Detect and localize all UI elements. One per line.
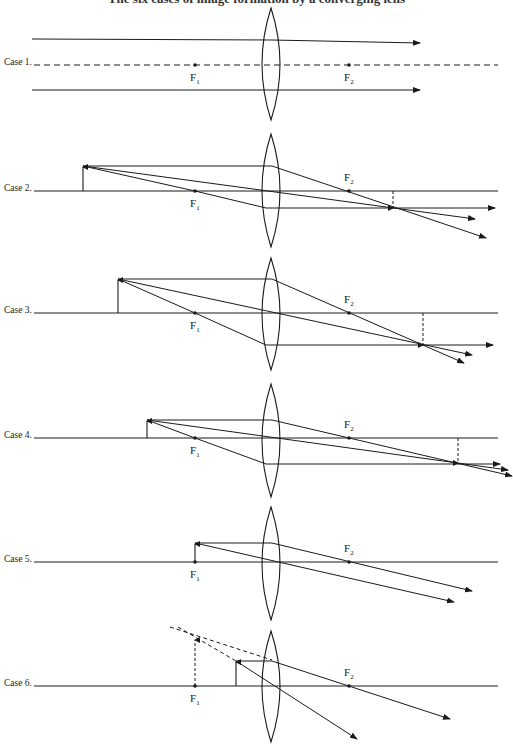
focal-subscript: 2 — [350, 178, 354, 186]
focal-label-f2: F2 — [344, 542, 354, 557]
focal-point-f2 — [347, 63, 351, 67]
converging-lens — [262, 8, 280, 120]
focal-subscript: 2 — [350, 673, 354, 681]
focal-point-f1 — [193, 311, 197, 315]
focal-subscript: 1 — [196, 204, 200, 212]
case-label: Case 3. — [4, 305, 32, 315]
case-label: Case 2. — [4, 183, 32, 193]
focal-label-f1: F1 — [190, 319, 200, 334]
light-ray — [147, 420, 508, 470]
light-ray — [147, 420, 512, 476]
focal-point-f2 — [347, 560, 351, 564]
virtual-ray-extension — [170, 627, 272, 660]
focal-subscript: 2 — [350, 425, 354, 433]
focal-point-f1 — [193, 560, 197, 564]
light-ray — [236, 661, 450, 719]
light-ray — [83, 166, 486, 238]
case-5-group — [34, 507, 498, 620]
light-ray — [83, 166, 495, 208]
case-3-group — [34, 258, 498, 370]
case-2-group — [34, 134, 498, 247]
focal-label-f1: F1 — [190, 71, 200, 86]
focal-subscript: 2 — [350, 300, 354, 308]
focal-subscript: 1 — [196, 326, 200, 334]
light-ray — [195, 543, 454, 602]
case-label: Case 4. — [4, 430, 32, 440]
light-ray — [236, 661, 357, 739]
focal-point-f2 — [347, 684, 351, 688]
focal-subscript: 1 — [196, 451, 200, 459]
focal-point-f2 — [347, 311, 351, 315]
virtual-ray-extension — [178, 627, 236, 661]
focal-subscript: 2 — [350, 549, 354, 557]
case-label: Case 5. — [4, 554, 32, 564]
case-6-group — [34, 627, 498, 742]
focal-point-f1 — [193, 436, 197, 440]
focal-point-f1 — [193, 189, 197, 193]
light-ray — [195, 543, 472, 591]
focal-label-f1: F1 — [190, 568, 200, 583]
focal-subscript: 2 — [350, 78, 354, 86]
focal-label-f1: F1 — [190, 444, 200, 459]
focal-point-f2 — [347, 189, 351, 193]
focal-point-f2 — [347, 436, 351, 440]
case-label: Case 6. — [4, 678, 32, 688]
light-ray — [118, 279, 472, 355]
light-ray — [118, 279, 464, 363]
focal-subscript: 1 — [196, 78, 200, 86]
ray-diagram-canvas — [0, 0, 513, 744]
case-1-group — [32, 8, 498, 120]
light-ray — [32, 39, 420, 43]
focal-label-f2: F2 — [344, 293, 354, 308]
focal-point-f1 — [193, 684, 197, 688]
focal-label-f1: F1 — [190, 692, 200, 707]
light-ray — [118, 279, 493, 345]
converging-lens — [262, 507, 280, 620]
focal-label-f2: F2 — [344, 71, 354, 86]
focal-label-f2: F2 — [344, 418, 354, 433]
converging-lens — [262, 258, 280, 370]
focal-subscript: 1 — [196, 575, 200, 583]
case-label: Case 1. — [4, 57, 32, 67]
focal-label-f2: F2 — [344, 666, 354, 681]
focal-subscript: 1 — [196, 699, 200, 707]
focal-label-f1: F1 — [190, 197, 200, 212]
case-4-group — [34, 384, 512, 497]
focal-point-f1 — [193, 63, 197, 67]
focal-label-f2: F2 — [344, 171, 354, 186]
converging-lens — [262, 384, 280, 497]
